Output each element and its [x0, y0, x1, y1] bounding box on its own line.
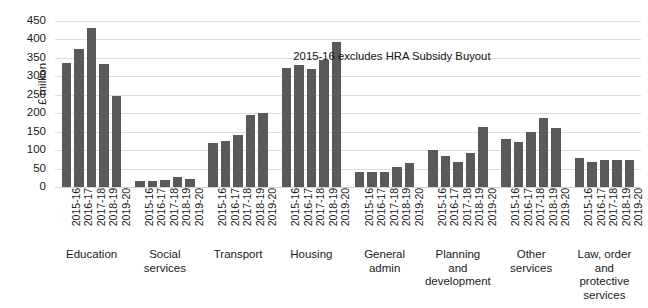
bar: [478, 127, 488, 187]
x-axis-year-label: 2018-19: [328, 188, 339, 226]
chart-annotation: 2015-16 excludes HRA Subsidy Buyout: [293, 50, 490, 62]
bar: [612, 160, 622, 187]
y-axis-tick-label: 50: [33, 163, 46, 175]
bar: [367, 172, 377, 187]
x-axis-year-label: 2019-20: [340, 188, 351, 226]
x-axis-year-label: 2018-19: [401, 188, 412, 226]
category-label-line: Law, order: [562, 248, 647, 262]
bar: [233, 135, 243, 187]
bar: [294, 65, 304, 187]
bar: [514, 142, 524, 187]
bar: [319, 60, 329, 187]
x-axis-year-label: 2019-20: [487, 188, 498, 226]
category-label-line: services: [122, 262, 207, 276]
x-axis-year-label: 2016-17: [596, 188, 607, 226]
x-axis-year-label: 2015-16: [437, 188, 448, 226]
bar: [148, 181, 158, 187]
x-axis-year-label: 2019-20: [194, 188, 205, 226]
bar: [587, 162, 597, 187]
x-axis-year-label: 2018-19: [474, 188, 485, 226]
category-label-line: and: [562, 262, 647, 276]
bar: [380, 172, 390, 187]
y-axis-tick-label: 150: [27, 126, 46, 138]
y-axis-tick-label: 350: [27, 52, 46, 64]
bar: [208, 143, 218, 187]
bar: [551, 128, 561, 187]
bar: [575, 158, 585, 187]
x-axis-category-label: Law, orderandprotectiveservices: [562, 248, 647, 302]
x-axis-year-label: 2016-17: [230, 188, 241, 226]
y-axis-tick-label: 400: [27, 34, 46, 46]
x-axis-year-label: 2018-19: [621, 188, 632, 226]
bar: [74, 49, 84, 187]
x-axis-year-label: 2016-17: [303, 188, 314, 226]
bar: [441, 156, 451, 187]
y-axis-tick-label: 450: [27, 15, 46, 27]
bars-layer: [55, 21, 641, 187]
bar-chart: £ million 050100150200250300350400450 20…: [0, 0, 648, 308]
x-axis-year-label: 2018-19: [255, 188, 266, 226]
x-axis-year-label: 2017-18: [389, 188, 400, 226]
y-axis-tick-label: 300: [27, 71, 46, 83]
bar: [466, 153, 476, 187]
x-axis-year-label: 2015-16: [144, 188, 155, 226]
y-axis-tick-label: 0: [40, 181, 46, 193]
category-label-line: development: [415, 275, 500, 289]
x-axis-year-label: 2015-16: [510, 188, 521, 226]
category-label-line: services: [562, 289, 647, 303]
x-axis-year-label: 2017-18: [462, 188, 473, 226]
x-axis-year-label: 2015-16: [290, 188, 301, 226]
bar: [501, 139, 511, 187]
bar: [392, 167, 402, 187]
bar: [282, 68, 292, 187]
bar: [112, 96, 122, 187]
x-axis-year-label: 2017-18: [242, 188, 253, 226]
bar: [173, 177, 183, 187]
x-axis-year-label: 2019-20: [414, 188, 425, 226]
x-axis-year-labels: 2015-162016-172017-182018-192019-202015-…: [55, 188, 641, 246]
x-axis-year-label: 2017-18: [608, 188, 619, 226]
bar: [87, 28, 97, 187]
bar: [405, 163, 415, 187]
bar: [453, 162, 463, 187]
x-axis-category-labels: EducationSocialservicesTransportHousingG…: [55, 248, 641, 306]
bar: [246, 115, 256, 187]
x-axis-year-label: 2018-19: [548, 188, 559, 226]
x-axis-year-label: 2016-17: [523, 188, 534, 226]
x-axis-year-label: 2018-19: [181, 188, 192, 226]
bar: [99, 64, 109, 187]
x-axis-year-label: 2016-17: [449, 188, 460, 226]
x-axis-year-label: 2016-17: [83, 188, 94, 226]
y-axis-tick-label: 250: [27, 89, 46, 101]
x-axis-year-label: 2016-17: [156, 188, 167, 226]
x-axis-year-label: 2019-20: [267, 188, 278, 226]
x-axis-year-label: 2019-20: [121, 188, 132, 226]
bar: [332, 42, 342, 187]
bar: [62, 63, 72, 187]
bar: [600, 160, 610, 187]
x-axis-year-label: 2018-19: [108, 188, 119, 226]
y-axis-tick-labels: 050100150200250300350400450: [0, 21, 50, 187]
bar: [539, 118, 549, 187]
x-axis-year-label: 2019-20: [633, 188, 644, 226]
x-axis-year-label: 2017-18: [169, 188, 180, 226]
bar: [221, 141, 231, 187]
bar: [428, 150, 438, 187]
x-axis-year-label: 2015-16: [364, 188, 375, 226]
x-axis-year-label: 2015-16: [217, 188, 228, 226]
x-axis-year-label: 2019-20: [560, 188, 571, 226]
x-axis-year-label: 2016-17: [376, 188, 387, 226]
y-axis-tick-label: 200: [27, 107, 46, 119]
bar: [355, 172, 365, 187]
bar: [625, 160, 635, 187]
bar: [185, 179, 195, 187]
bar: [526, 132, 536, 187]
x-axis-year-label: 2017-18: [315, 188, 326, 226]
x-axis-year-label: 2015-16: [583, 188, 594, 226]
x-axis-year-label: 2017-18: [535, 188, 546, 226]
bar: [160, 180, 170, 187]
x-axis-year-label: 2017-18: [96, 188, 107, 226]
y-axis-tick-label: 100: [27, 144, 46, 156]
bar: [135, 181, 145, 187]
bar: [307, 69, 317, 187]
